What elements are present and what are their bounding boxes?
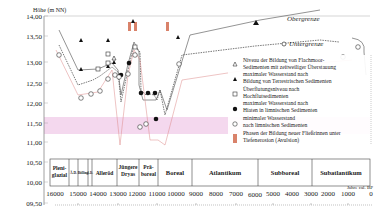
x-axis: Jahre cal. BP 16000 15000 14000 13000 12… — [46, 185, 373, 205]
xticks-7: 9000 — [189, 190, 204, 198]
legend-items-1-text1: maximaler Wasserstand nach — [243, 71, 308, 77]
xticks-12: 4000 — [285, 190, 300, 198]
orange-bar-icon — [233, 134, 237, 143]
xticks-1: 15000 — [69, 190, 87, 198]
yticks-3: 12,50 — [26, 80, 42, 88]
yticks-4: 12,00 — [26, 100, 42, 108]
xticks-9: 7000 — [229, 190, 244, 198]
yticks-2: 13,00 — [26, 59, 42, 67]
filled-circle-markers — [119, 61, 159, 122]
xticks-3: 13000 — [109, 190, 127, 198]
xticks-0: 16000 — [46, 190, 64, 198]
legend-items-0-text2: Sedimenten mit zeitweiliger Überstauung — [243, 64, 336, 70]
yticks-7: 10,50 — [26, 159, 42, 167]
legend-items-0-text1: Niveau der Bildung von Flachmoor- — [243, 57, 324, 63]
chart: Höhe (m NN) 14,00 13,50 13,00 12,50 12,0… — [0, 0, 387, 220]
legend-items-4-text2: nach limnischen Sedimenten — [243, 122, 308, 128]
legend-items-1-text2: Bildung von Terrestrischen Sedimenten — [243, 78, 332, 84]
legend-items-2-text1: Überflutungsniveau nach — [243, 86, 300, 92]
yticks-6: 11,00 — [27, 139, 43, 147]
xticks-10: 6000 — [248, 191, 263, 199]
yticks-1: 13,50 — [26, 33, 42, 41]
open-square-icon — [233, 92, 237, 96]
avulsion-bars — [128, 22, 169, 31]
lower-label-circle — [282, 42, 286, 46]
periods-p4: Alleröd — [96, 170, 114, 176]
periods-p1: Ä.D. — [70, 170, 77, 175]
periods-p8: Atlantikum — [209, 169, 242, 176]
legend: Niveau der Bildung von Flachmoor- Sedime… — [228, 55, 380, 157]
filled-circle-icon — [233, 107, 237, 111]
periods-p6b: boreal — [141, 171, 156, 177]
xticks-11: 5000 — [266, 190, 281, 198]
xticks-2: 14000 — [89, 190, 107, 198]
periods-p6a: Prä- — [143, 164, 154, 170]
xticks-5: 11000 — [148, 190, 166, 198]
periods-p3: A.D. — [87, 171, 93, 175]
periods-p9: Subboreal — [271, 169, 300, 176]
periods-p7: Boreal — [166, 169, 184, 176]
legend-items-5-text2: Tiefenerosion (Avulsion) — [243, 137, 299, 144]
open-triangle-marker — [112, 56, 116, 60]
yticks-9: 09,50 — [26, 200, 42, 208]
xticks-8: 8000 — [209, 190, 224, 198]
xticks-14: 2000 — [321, 190, 336, 198]
period-table: Pleni- glazial Ä.D. Bölling A.D. Alleröd… — [50, 159, 370, 186]
periods-p10: Subatlantikum — [320, 169, 362, 176]
yticks-8: 10,00 — [26, 179, 42, 187]
upper-label: Obergrenze — [287, 15, 320, 23]
legend-items-2-text2: Hochflutsedimenten — [243, 93, 289, 99]
legend-items-4-text1: minimaler Wasserstand — [243, 115, 295, 121]
yticks-5: 11,50 — [27, 120, 43, 128]
open-circle-icon — [233, 122, 237, 126]
xticks-4: 12000 — [128, 190, 146, 198]
periods-p5b: Dryas — [121, 171, 135, 177]
yticks-0: 14,00 — [26, 13, 42, 21]
xticks-13: 3000 — [304, 190, 319, 198]
periods-p5a: Jüngere — [119, 164, 138, 170]
lower-label: Untergrenze — [289, 40, 323, 48]
legend-items-3-text1: maximaler Wasserstand nach — [243, 100, 308, 106]
legend-items-3-text2: Hiaten in limnischen Sedimenten — [243, 107, 318, 113]
periods-p0b: glazial — [52, 172, 68, 178]
xticks-15: 1000 — [341, 190, 356, 198]
xticks-16: 0 — [369, 190, 373, 198]
xticks-6: 10000 — [167, 190, 185, 198]
periods-p0a: Pleni- — [53, 165, 67, 171]
legend-items-5-text1: Phasen der Bildung neuer Fließrinnen unt… — [243, 130, 341, 136]
